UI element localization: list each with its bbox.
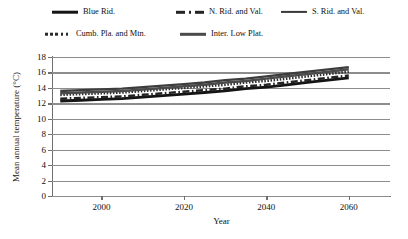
legend-item-1: N. Rid. and Val. [176,8,263,16]
x-axis-tick [101,196,102,200]
legend-item-label: Inter. Low Plat. [211,30,263,38]
y-axis-tick-label: 4 [24,160,46,170]
y-axis-tick-label: 16 [24,67,46,77]
x-axis-tick [266,196,267,200]
x-axis-tick-label: 2020 [175,202,193,212]
series-line-1 [60,76,349,99]
y-axis-tick-label: 8 [24,129,46,139]
legend-item-label: Cumb. Pla. and Mtn. [76,30,146,38]
y-axis-tick-label: 12 [24,98,46,108]
y-axis-tick-label: 14 [24,83,46,93]
y-axis-title-text: Mean annual temperature (°C) [11,72,21,182]
y-axis-tick-label: 18 [24,52,46,62]
x-axis-tick [184,196,185,200]
x-axis-tick-label: 2040 [257,202,275,212]
legend-item-label: N. Rid. and Val. [209,8,263,16]
legend-swatch-icon [180,31,206,38]
data-series-layer [52,57,390,196]
chart-figure: Blue Rid.N. Rid. and Val.S. Rid. and Val… [0,0,408,239]
gridline [52,196,390,197]
series-line-2 [60,67,349,91]
legend-item-3: Cumb. Pla. and Mtn. [45,30,146,38]
plot-area: 024681012141618 2000202020402060 [52,57,390,196]
x-axis-tick-label: 2000 [92,202,110,212]
y-axis-tick-label: 10 [24,114,46,124]
legend-swatch-icon [176,9,204,16]
legend-swatch-icon [45,31,71,38]
chart-legend: Blue Rid.N. Rid. and Val.S. Rid. and Val… [0,0,408,48]
y-axis-tick-label: 0 [24,191,46,201]
y-axis-tick-label: 6 [24,144,46,154]
y-axis-tick [48,196,52,197]
x-axis-title: Year [52,216,391,226]
legend-swatch-icon [52,9,78,16]
y-axis-tick-label: 2 [24,175,46,185]
legend-item-4: Inter. Low Plat. [180,30,263,38]
legend-item-0: Blue Rid. [52,8,115,16]
x-axis-tick [349,196,350,200]
legend-item-label: S. Rid. and Val. [312,8,364,16]
x-axis-tick-label: 2060 [340,202,358,212]
legend-swatch-icon [281,9,307,16]
legend-item-label: Blue Rid. [83,8,115,16]
y-axis-title: Mean annual temperature (°C) [9,57,23,196]
legend-item-2: S. Rid. and Val. [281,8,364,16]
